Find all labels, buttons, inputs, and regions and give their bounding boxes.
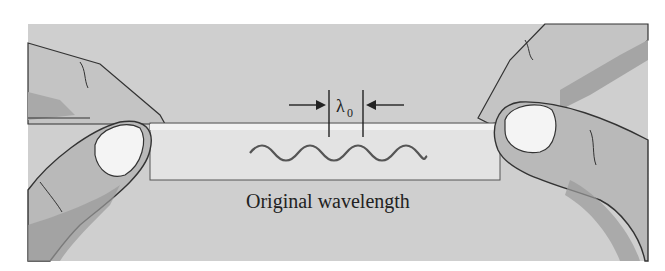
rubber-band	[150, 123, 500, 180]
lambda-subscript: 0	[347, 106, 353, 120]
caption: Original wavelength	[246, 190, 410, 213]
rubber-band-illustration: λ 0 Original wavelength	[0, 0, 665, 271]
lambda-symbol: λ	[336, 96, 345, 116]
